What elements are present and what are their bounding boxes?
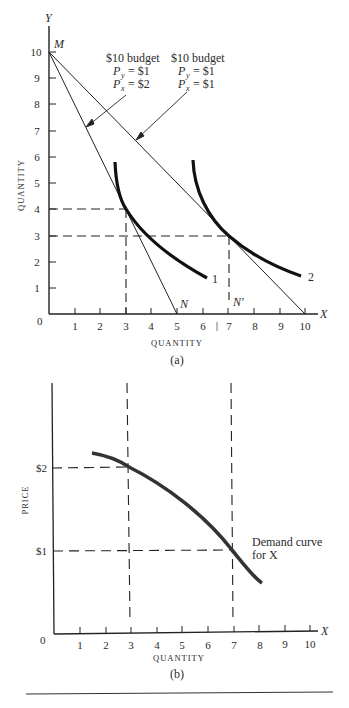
svg-text:1: 1 [72,320,78,332]
svg-text:= $1: = $1 [193,77,215,91]
y-ticks: 1 2 3 4 5 6 7 8 9 10 [31,46,57,294]
svg-text:x: x [120,84,125,93]
budget-line-1 [49,52,177,314]
svg-text:P: P [177,64,186,78]
panel-a: Y X 0 1 2 3 4 5 6 7 8 9 10 1 2 3 4 5 6 7… [16,11,328,367]
x-axis-label: QUANTITY [153,653,205,663]
svg-text:P: P [177,77,186,91]
svg-text:10: 10 [305,638,317,650]
point-n-label: N [179,297,189,311]
demand-curve [92,453,262,583]
x-axis [54,631,318,634]
svg-text:$10 budget: $10 budget [171,51,225,65]
svg-text:7: 7 [231,639,237,651]
svg-text:9: 9 [282,638,288,650]
svg-text:2: 2 [34,256,40,268]
x-axis-letter: X [320,624,329,638]
svg-text:P: P [112,64,121,78]
budget-line-2 [49,52,305,314]
indifference-curve-1 [115,162,207,278]
y-axis [52,383,54,634]
x-axis-letter: X [319,307,328,321]
svg-text:= $1: = $1 [128,64,150,78]
x-ticks: 1 2 3 4 5 6 7 8 9 10 [77,625,316,651]
svg-text:5: 5 [179,639,185,651]
svg-text:4: 4 [34,203,40,215]
price-1-label: $1 [36,545,47,557]
svg-text:7: 7 [226,320,232,332]
origin-label: 0 [37,315,43,327]
svg-text:8: 8 [34,98,40,110]
indifference-curve-2 [193,160,301,276]
svg-text:6: 6 [200,320,206,332]
y-axis-letter: Y [45,11,53,25]
svg-text:7: 7 [34,125,40,137]
bottom-rule [26,692,333,694]
svg-text:6: 6 [34,151,40,163]
svg-text:y: y [185,71,190,80]
svg-text:10: 10 [31,46,43,58]
svg-text:P: P [112,77,121,91]
caption-a: (a) [170,353,183,367]
svg-text:$10 budget: $10 budget [106,51,160,65]
svg-text:= $1: = $1 [193,64,215,78]
curve-2-label: 2 [308,270,314,284]
panel-b: X 0 1 2 3 4 5 6 7 8 9 10 QUANTITY PRICE … [20,383,329,681]
point-n-prime-label: N′ [232,295,244,309]
svg-text:3: 3 [128,639,134,651]
svg-text:y: y [120,71,125,80]
annotation-arrows [86,92,187,140]
svg-text:= $2: = $2 [128,77,150,91]
svg-text:1: 1 [34,282,40,294]
svg-text:4: 4 [154,639,160,651]
svg-text:2: 2 [103,639,109,651]
price-2-label: $2 [36,462,47,474]
point-m-label: M [53,37,65,51]
svg-text:x: x [185,84,190,93]
svg-text:5: 5 [174,320,180,332]
demand-label-line-2: for X [252,548,278,562]
svg-text:3: 3 [123,320,129,332]
svg-text:3: 3 [34,230,40,242]
x-axis-label: QUANTITY [151,338,203,348]
y-axis-label: PRICE [20,485,30,514]
figure: Y X 0 1 2 3 4 5 6 7 8 9 10 1 2 3 4 5 6 7… [0,0,349,708]
arrow-head-icon [86,119,94,127]
caption-b: (b) [170,667,184,681]
svg-text:9: 9 [278,320,284,332]
origin-label: 0 [40,634,46,646]
svg-text:9: 9 [34,72,40,84]
svg-text:4: 4 [148,320,154,332]
svg-text:6: 6 [205,639,211,651]
curve-1-label: 1 [212,272,218,286]
svg-text:8: 8 [257,639,263,651]
budget-1-annotation: $10 budget P y = $1 P x = $2 [106,51,160,93]
svg-text:8: 8 [252,320,258,332]
svg-text:10: 10 [300,320,312,332]
y-axis-label: QUANTITY [16,159,26,211]
svg-text:5: 5 [34,177,40,189]
svg-text:1: 1 [77,639,83,651]
demand-label: Demand curve [252,535,322,549]
budget-2-annotation: $10 budget P y = $1 P x = $1 [171,51,225,93]
svg-text:2: 2 [97,320,103,332]
guide-lines [52,383,233,622]
x-ticks: 1 2 3 4 5 6 7 8 9 10 [72,308,311,332]
